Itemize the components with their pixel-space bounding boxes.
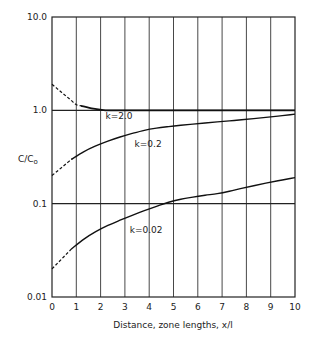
x-tick-label: 9 bbox=[268, 302, 274, 312]
x-tick-label: 2 bbox=[98, 302, 104, 312]
y-tick-label: 10.0 bbox=[27, 12, 47, 22]
x-tick-label: 8 bbox=[244, 302, 250, 312]
series-line-k=0.02 bbox=[71, 178, 295, 249]
y-axis-label: C/Co bbox=[18, 154, 38, 166]
y-axis-label-subscript: o bbox=[34, 158, 38, 166]
curve-label: k=2.0 bbox=[105, 111, 132, 121]
series-line-dashed-k=0.2 bbox=[52, 159, 72, 176]
x-tick-label: 5 bbox=[171, 302, 177, 312]
vertical-gridlines bbox=[76, 17, 270, 297]
y-tick-label: 0.1 bbox=[33, 199, 47, 209]
y-tick-label: 0.01 bbox=[27, 292, 47, 302]
y-tick-label: 1.0 bbox=[33, 105, 48, 115]
x-tick-label: 7 bbox=[219, 302, 225, 312]
x-tick-label: 1 bbox=[73, 302, 79, 312]
curve-label: k=0.02 bbox=[130, 225, 163, 235]
x-tick-label: 6 bbox=[195, 302, 201, 312]
series-line-dashed-k=0.02 bbox=[52, 249, 72, 269]
x-tick-label: 10 bbox=[289, 302, 301, 312]
x-axis-label: Distance, zone lengths, x/l bbox=[113, 320, 232, 330]
x-tick-label: 0 bbox=[49, 302, 55, 312]
y-axis-label-main: C/C bbox=[18, 154, 34, 164]
curve-label: k=0.2 bbox=[135, 139, 162, 149]
x-tick-label: 4 bbox=[146, 302, 152, 312]
x-tick-label: 3 bbox=[122, 302, 128, 312]
chart-canvas: 10.01.00.10.01 012345678910 k=2.0k=0.2k=… bbox=[0, 0, 311, 340]
x-axis-tick-labels: 012345678910 bbox=[49, 302, 301, 312]
series-line-k=2.0 bbox=[81, 106, 295, 111]
series-line-dashed-k=2.0 bbox=[52, 84, 82, 106]
curve-labels: k=2.0k=0.2k=0.02 bbox=[105, 111, 162, 235]
